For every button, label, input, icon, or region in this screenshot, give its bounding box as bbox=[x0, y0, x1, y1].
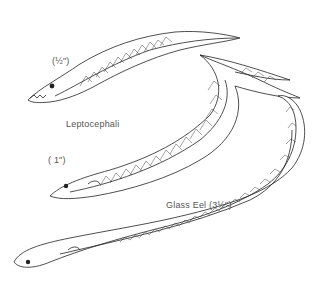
label-glass-eel: Glass Eel (3½") bbox=[166, 200, 232, 210]
label-leptocephali: Leptocephali bbox=[66, 119, 119, 129]
label-one-inch: ( 1") bbox=[48, 155, 66, 165]
eel-illustration: (½") Leptocephali ( 1") Glass Eel (3½") bbox=[0, 0, 326, 288]
leptocephalus-small bbox=[28, 31, 240, 102]
glass-eel bbox=[14, 96, 305, 268]
eel-drawing bbox=[0, 0, 326, 288]
label-half-inch: (½") bbox=[52, 56, 70, 66]
